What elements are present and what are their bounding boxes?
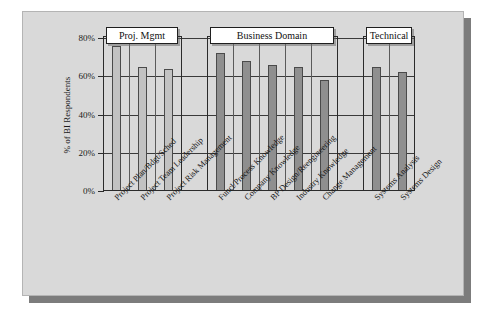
category-separator	[155, 38, 156, 191]
bar	[112, 46, 121, 191]
y-tick-mark	[98, 191, 103, 192]
chart-figure: % of BI Respondents 80%60%40%20%0% Proj.…	[0, 0, 480, 318]
group-bracket-line	[414, 36, 415, 192]
y-axis-title: % of BI Respondents	[60, 38, 74, 192]
group-bracket-tick	[363, 36, 367, 37]
group-header-technical: Technical	[366, 27, 412, 44]
bar	[372, 67, 381, 191]
y-tick-label: 80%	[79, 33, 96, 43]
group-bracket-line	[337, 36, 338, 192]
y-tick-label: 0%	[83, 186, 95, 196]
category-separator	[311, 38, 312, 191]
category-separator	[129, 38, 130, 191]
group-header-proj-mgmt: Proj. Mgmt	[106, 27, 178, 44]
y-axis-title-text: % of BI Respondents	[62, 77, 72, 154]
group-header-business-domain: Business Domain	[210, 27, 334, 44]
group-bracket-tick	[207, 36, 211, 37]
category-separator	[285, 38, 286, 191]
group-bracket-tick	[333, 36, 337, 37]
group-bracket-tick	[103, 36, 107, 37]
y-tick-label: 40%	[79, 110, 96, 120]
group-bracket-line	[363, 36, 364, 192]
y-tick-label: 20%	[79, 148, 96, 158]
group-bracket-line	[181, 36, 182, 192]
group-bracket-line	[103, 36, 104, 192]
group-bracket-tick	[177, 36, 181, 37]
category-separator	[233, 38, 234, 191]
category-separator	[259, 38, 260, 191]
group-bracket-tick	[411, 36, 415, 37]
bar	[216, 53, 225, 191]
group-bracket-line	[207, 36, 208, 192]
category-separator	[389, 38, 390, 191]
y-tick-label: 60%	[79, 71, 96, 81]
